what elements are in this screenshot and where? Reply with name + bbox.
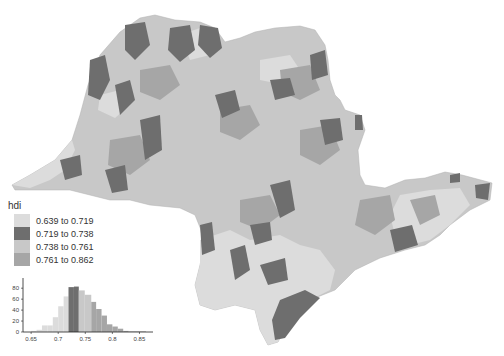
legend-label: 0.639 to 0.719: [36, 216, 94, 226]
histogram-bar: [53, 317, 58, 332]
x-tick-label: 0.7: [54, 336, 63, 342]
histogram-bar: [64, 296, 69, 332]
legend-title: hdi: [8, 200, 21, 211]
x-tick-label: 0.75: [79, 336, 91, 342]
histogram: 0204060800.650.70.750.80.85: [0, 276, 170, 346]
legend-item: 0.639 to 0.719: [14, 214, 94, 227]
histogram-bar: [85, 295, 92, 332]
y-tick-label: 80: [12, 285, 19, 291]
histogram-bar: [74, 287, 79, 332]
y-tick-label: 60: [12, 296, 19, 302]
histogram-bar: [79, 290, 85, 332]
legend-label: 0.738 to 0.761: [36, 242, 94, 252]
legend-item: 0.719 to 0.738: [14, 227, 94, 240]
legend: 0.639 to 0.719 0.719 to 0.738 0.738 to 0…: [14, 214, 94, 266]
x-tick-label: 0.65: [25, 336, 37, 342]
legend-item: 0.738 to 0.761: [14, 240, 94, 253]
x-tick-label: 0.85: [134, 336, 146, 342]
histogram-bar: [58, 306, 63, 332]
histogram-bar: [118, 329, 123, 332]
histogram-bar: [91, 302, 96, 332]
legend-label: 0.719 to 0.738: [36, 229, 94, 239]
histogram-bar: [112, 327, 117, 332]
legend-swatch: [14, 240, 30, 253]
y-tick-label: 0: [16, 329, 20, 335]
legend-item: 0.761 to 0.862: [14, 253, 94, 266]
histogram-bar: [102, 316, 107, 332]
histogram-bar: [42, 325, 47, 332]
x-tick-label: 0.8: [108, 336, 117, 342]
histogram-bar: [96, 309, 101, 332]
histogram-bar: [107, 324, 112, 332]
legend-swatch: [14, 253, 30, 266]
histogram-bar: [47, 325, 52, 332]
y-tick-label: 20: [12, 318, 19, 324]
histogram-bar: [69, 287, 74, 332]
legend-label: 0.761 to 0.862: [36, 255, 94, 265]
legend-swatch: [14, 214, 30, 227]
y-tick-label: 40: [12, 307, 19, 313]
legend-swatch: [14, 227, 30, 240]
